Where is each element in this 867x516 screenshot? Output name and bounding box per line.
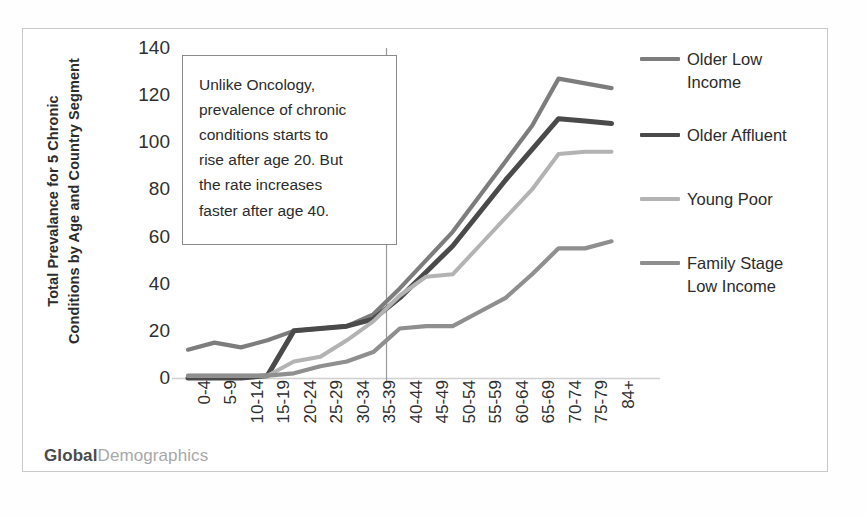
series-line-family-stage-low-income [188, 241, 612, 375]
x-tick-75-79: 75-79 [592, 380, 612, 450]
legend-swatch-icon [640, 261, 680, 265]
annotation-callout: Unlike Oncology,prevalence of chroniccon… [182, 55, 397, 245]
brand-light-text: Demographics [98, 446, 209, 465]
x-tick-0-4: 0-4 [195, 380, 215, 450]
legend-item-label: Family Stage Low Income [687, 252, 783, 299]
x-tick-5-9: 5-9 [221, 380, 241, 450]
annotation-line-2: prevalence of chronic [199, 97, 382, 122]
legend-item-young-poor[interactable]: Young Poor [640, 188, 773, 211]
legend-item-family-stage-low-income[interactable]: Family Stage Low Income [640, 252, 783, 299]
x-tick-30-34: 30-34 [354, 380, 374, 450]
x-tick-45-49: 45-49 [433, 380, 453, 450]
x-tick-15-19: 15-19 [274, 380, 294, 450]
annotation-line-1: Unlike Oncology, [199, 72, 382, 97]
legend-item-older-low-income[interactable]: Older Low Income [640, 48, 762, 95]
chart-screenshot: Total Prevalance for 5 Chronic Condition… [0, 0, 867, 516]
x-tick-25-29: 25-29 [327, 380, 347, 450]
x-tick-35-39: 35-39 [380, 380, 400, 450]
annotation-line-3: conditions starts to [199, 122, 382, 147]
x-tick-20-24: 20-24 [301, 380, 321, 450]
legend-item-label: Older Affluent [687, 124, 787, 147]
annotation-line-4: rise after age 20. But [199, 147, 382, 172]
x-tick-70-74: 70-74 [566, 380, 586, 450]
legend-item-label: Young Poor [687, 188, 773, 211]
x-tick-65-69: 65-69 [539, 380, 559, 450]
legend-swatch-icon [640, 133, 680, 137]
brand-bold-text: Global [44, 446, 98, 465]
annotation-line-6: faster after age 40. [199, 198, 382, 223]
legend-swatch-icon [640, 197, 680, 201]
x-tick-84+: 84+ [619, 380, 639, 450]
chart-plot-area: Total Prevalance for 5 Chronic Condition… [0, 0, 867, 516]
legend-item-older-affluent[interactable]: Older Affluent [640, 124, 787, 147]
annotation-line-5: the rate increases [199, 172, 382, 197]
brand-footer: GlobalDemographics [44, 446, 208, 466]
x-axis-tick-labels: 0-45-910-1415-1920-2425-2930-3435-3940-4… [0, 382, 867, 452]
x-tick-10-14: 10-14 [248, 380, 268, 450]
x-tick-55-59: 55-59 [486, 380, 506, 450]
x-tick-50-54: 50-54 [460, 380, 480, 450]
legend-item-label: Older Low Income [687, 48, 762, 95]
x-tick-60-64: 60-64 [513, 380, 533, 450]
legend-swatch-icon [640, 57, 680, 61]
x-tick-40-44: 40-44 [407, 380, 427, 450]
